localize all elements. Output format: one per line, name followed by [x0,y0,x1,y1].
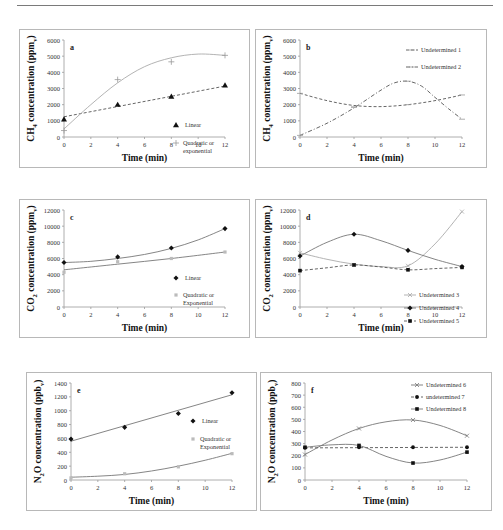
x-tick-label: 2 [89,311,92,318]
y-tick-label: 1000 [54,407,67,414]
legend-item: Undetermined 1 [406,46,461,53]
svg-text:Linear: Linear [202,417,218,424]
x-tick-label: 8 [170,311,173,318]
series-linear [61,226,227,265]
legend: Undetermined 1Undetermined 2 [406,46,461,70]
series-undetermined-5 [298,263,464,272]
x-tick-label: 8 [406,141,409,148]
legend-item: Linear [173,274,201,281]
series-undetermined-6 [303,418,469,457]
y-tick-label: 0 [293,304,296,311]
x-tick-label: 4 [123,484,127,491]
x-tick-label: 12 [222,311,229,318]
x-tick-label: 8 [411,484,414,491]
y-tick-label: 4000 [283,69,296,76]
chart-panel-d: 020004000600080001000012000024681012Time… [255,199,487,338]
y-tick-label: 6000 [283,37,296,44]
y-axis-label: N2O concentration (ppbv) [33,380,45,484]
x-tick-label: 0 [69,484,72,491]
panel-label: f [311,386,314,395]
series-quadratic-or-exponential [61,52,228,133]
axes: 0100020003000400050006000024681012 [47,37,228,149]
svg-text:Undetermined 2: Undetermined 2 [421,63,461,70]
x-tick-label: 4 [116,141,120,148]
x-tick-label: 2 [89,141,92,148]
x-tick-label: 0 [303,484,306,491]
y-tick-label: 2000 [47,287,60,294]
top-rule [17,5,493,6]
series-undetermined-3 [298,210,464,268]
x-axis-label: Time (min) [129,496,174,507]
y-tick-label: 600 [291,404,301,411]
y-tick-label: 1200 [54,393,67,400]
svg-text:Undetermined 6: Undetermined 6 [426,381,466,388]
series-linear [61,82,228,121]
x-tick-label: 4 [352,141,356,148]
legend: Undetermined 3Undetermined 4Undetermined… [404,291,459,324]
y-tick-label: 100 [291,464,301,471]
x-tick-label: 6 [384,484,388,491]
x-tick-label: 0 [298,311,301,318]
x-tick-label: 2 [330,484,333,491]
legend-item: Quadratic orExponential [174,291,214,305]
legend-item: Linear [173,121,201,128]
y-tick-label: 6000 [47,37,60,44]
x-tick-label: 12 [459,311,466,318]
series-undetermined-7 [303,445,469,449]
y-tick-label: 12000 [280,207,296,214]
x-tick-label: 4 [352,311,356,318]
y-axis-label: N2O concentration (ppbv) [267,380,279,484]
y-tick-label: 300 [291,440,301,447]
x-tick-label: 0 [298,141,301,148]
chart-panel-a: 0100020003000400050006000024681012Time (… [19,29,250,168]
y-tick-label: 200 [57,463,67,470]
y-tick-label: 10000 [280,223,296,230]
y-tick-label: 3000 [283,85,296,92]
y-tick-label: 8000 [47,239,60,246]
y-tick-label: 5000 [283,53,296,60]
svg-text:undetermined 7: undetermined 7 [426,393,465,400]
x-axis-label: Time (min) [358,323,403,334]
chart-panel-b: 0100020003000400050006000024681012Time (… [255,29,487,168]
y-tick-label: 5000 [47,53,60,60]
x-tick-label: 0 [62,141,65,148]
svg-text:Exponential: Exponential [200,443,230,450]
svg-text:Linear: Linear [185,274,201,281]
x-tick-label: 6 [143,141,147,148]
legend-item: Undetermined 2 [406,63,461,70]
x-tick-label: 12 [229,484,236,491]
x-tick-label: 4 [116,311,120,318]
series-quadratic-or-exponential [69,452,233,479]
chart-panel-f: 0100200300400500600700800024681012Time (… [260,372,492,511]
y-tick-label: 0 [57,134,60,141]
y-tick-label: 1000 [47,117,60,124]
y-tick-label: 400 [291,428,301,435]
x-tick-label: 6 [150,484,154,491]
panel-label: b [306,43,311,52]
y-tick-label: 1400 [54,380,67,387]
y-tick-label: 2000 [283,287,296,294]
chart-panel-e: 0200400600800100012001400024681012Time (… [26,372,257,511]
series-quadratic-or-exponential [62,250,226,273]
x-tick-label: 12 [464,484,471,491]
x-tick-label: 12 [459,141,466,148]
panel-label: d [306,213,311,222]
y-tick-label: 0 [298,477,301,484]
panel-label: e [77,386,81,395]
svg-text:Quadratic or: Quadratic or [183,139,214,146]
y-tick-label: 0 [57,304,60,311]
y-tick-label: 2000 [283,101,296,108]
x-tick-label: 10 [202,484,209,491]
y-tick-label: 200 [291,452,301,459]
y-tick-label: 12000 [44,207,60,214]
y-axis-label: CO2 concentration (ppmv) [26,205,38,311]
x-tick-label: 8 [170,141,173,148]
svg-text:Exponential: Exponential [183,299,213,306]
y-tick-label: 6000 [47,255,60,262]
svg-text:Undetermined 5: Undetermined 5 [419,317,459,324]
svg-text:Undetermined 1: Undetermined 1 [421,46,461,53]
axes: 020004000600080001000012000024681012 [280,207,466,319]
svg-text:exponential: exponential [183,147,212,154]
y-tick-label: 1000 [283,117,296,124]
y-axis-label: CO2 concentration (ppmv) [262,205,274,311]
